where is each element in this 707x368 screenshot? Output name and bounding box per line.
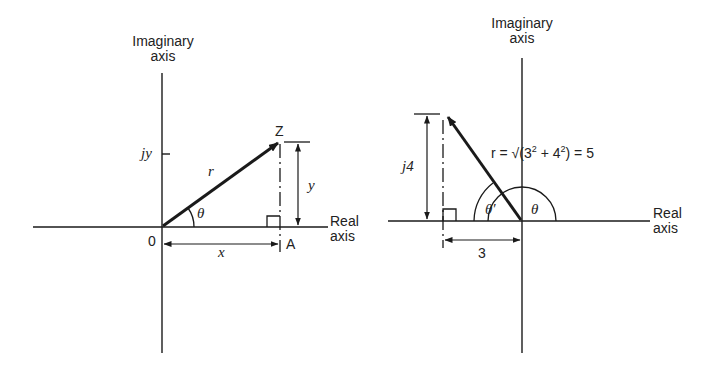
three-dimension-label: 3 [478,246,486,261]
right-real-axis-label: Real axis [653,206,682,236]
radius-formula: r = √(32 + 42) = 5 [491,146,594,161]
point-z-label: Z [275,124,284,139]
point-a-label: A [286,237,295,252]
left-real-label-line2: axis [330,229,359,244]
right-real-label-line2: axis [653,221,682,236]
radius-r-label: r [208,164,214,179]
theta-label-example: θ [531,202,538,217]
right-angle-marker [267,216,280,227]
theta-arc [188,208,194,227]
theta-prime-label: θ′ [485,202,496,217]
right-imag-label-line2: axis [477,31,567,46]
diagram-canvas [0,0,707,368]
theta-label: θ [197,206,204,221]
formula-mid: + 4 [537,145,561,161]
example-argand-diagram [388,58,650,353]
phasor-r [163,143,278,226]
j4-dimension-label: j4 [402,159,414,174]
right-real-label-line1: Real [653,206,682,221]
x-dimension-label: x [218,245,225,260]
right-angle-marker-example [443,209,456,221]
formula-suffix: ) = 5 [566,145,594,161]
left-real-axis-label: Real axis [330,214,359,244]
left-imag-label-line1: Imaginary [118,34,208,49]
left-imag-label-line2: axis [118,49,208,64]
origin-label: 0 [148,234,156,249]
right-imaginary-axis-label: Imaginary axis [477,16,567,46]
left-imaginary-axis-label: Imaginary axis [118,34,208,64]
general-argand-diagram [33,73,328,353]
left-real-label-line1: Real [330,214,359,229]
y-dimension-label: y [308,178,315,193]
jy-tick-label: jy [141,146,152,161]
formula-prefix: r = √(3 [491,145,532,161]
right-imag-label-line1: Imaginary [477,16,567,31]
